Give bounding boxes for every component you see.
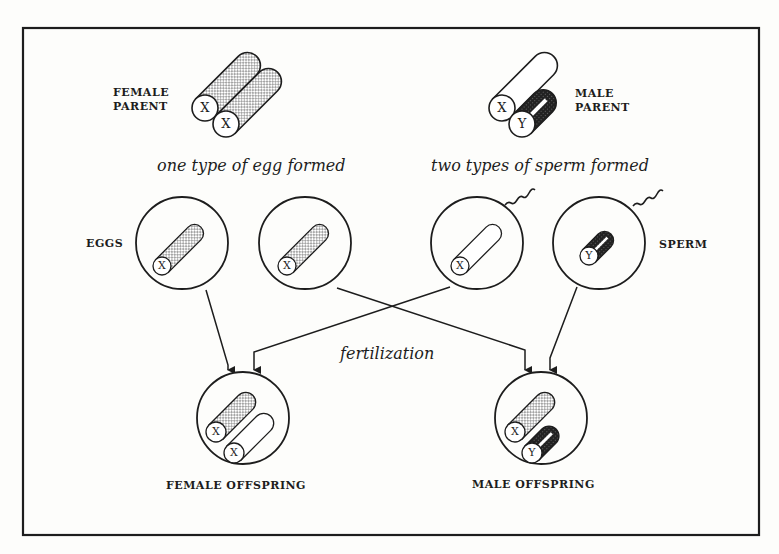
male-offspring-label: MALE OFFSPRING [472,478,595,492]
chromosome-letter: X [225,444,243,462]
chromosome-letter: X [506,423,524,441]
chromosome-letter: X [207,423,225,441]
chromosome-letter: X [195,98,215,118]
arrow-spermy-to-male [550,287,577,370]
male-offspring-cell [495,372,587,467]
female-parent-label: FEMALE PARENT [113,86,169,114]
arrow-egg1-to-female [206,290,228,370]
egg-2-cell [259,197,351,289]
chromosome-letter: X [278,257,296,275]
sperm-label: SPERM [659,238,707,252]
sperm-tail-icon [505,189,535,205]
chromosome-letter: Y [523,444,541,462]
female-offspring-label: FEMALE OFFSPRING [166,479,306,493]
female-offspring-cell [197,372,289,467]
chromosome-letter: X [153,257,171,275]
egg-1-cell [136,197,228,289]
male-parent-label: MALE PARENT [575,87,630,115]
chromosome-letter: X [492,98,512,118]
chromosome-letter: Y [580,247,598,265]
fertilization-caption: fertilization [340,344,434,363]
chromosome-letter: Y [512,114,532,134]
sperm-tail-icon [633,190,663,206]
female-parent-chromosomes [187,47,287,142]
sperm-y-cell [553,190,663,289]
sperm-caption: two types of sperm formed [431,156,649,175]
diagram-canvas: .chr { position: absolute; width: 20px; … [0,0,779,554]
chromosome-letter: X [451,257,469,275]
sperm-x-cell [431,189,535,289]
eggs-label: EGGS [86,237,123,251]
chromosome-letter: X [216,114,236,134]
egg-caption: one type of egg formed [157,156,346,175]
